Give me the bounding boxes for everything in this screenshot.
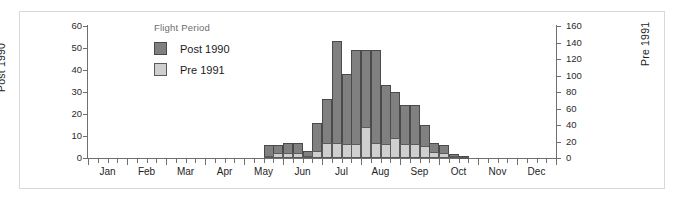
x-axis-label-apr: Apr <box>203 166 247 177</box>
x-minor-tick-mark <box>234 159 235 163</box>
bar-pre-1991 <box>322 143 332 158</box>
bar-post-1990 <box>351 50 361 158</box>
x-minor-tick-mark <box>137 159 138 163</box>
legend-label-pre-1991: Pre 1991 <box>180 64 225 76</box>
left-y-tick-label: 30 <box>56 87 82 97</box>
x-axis-label-oct: Oct <box>437 166 481 177</box>
right-y-tick-label: 160 <box>566 21 594 31</box>
x-minor-tick-mark <box>332 159 333 163</box>
x-minor-tick-mark <box>215 159 216 163</box>
x-minor-tick-mark <box>459 159 460 163</box>
right-y-tick-label: 100 <box>566 71 594 81</box>
x-axis-label-nov: Nov <box>476 166 520 177</box>
bar-pre-1991 <box>332 143 342 158</box>
x-axis-label-aug: Aug <box>359 166 403 177</box>
legend-title: Flight Period <box>154 22 230 33</box>
x-major-tick-mark <box>361 159 362 165</box>
right-y-tick-mark <box>557 158 561 159</box>
bar-post-1990 <box>332 41 342 158</box>
legend-swatch-pre-1991-icon <box>154 63 167 76</box>
left-y-tick-label: 0 <box>56 153 82 163</box>
x-minor-tick-mark <box>371 159 372 163</box>
x-major-tick-mark <box>244 159 245 165</box>
bar-pre-1991 <box>273 153 283 158</box>
x-major-tick-mark <box>283 159 284 165</box>
bar-pre-1991 <box>293 153 303 158</box>
right-y-tick-label: 60 <box>566 104 594 114</box>
x-axis-label-jan: Jan <box>86 166 130 177</box>
right-y-tick-mark <box>557 76 561 77</box>
x-minor-tick-mark <box>273 159 274 163</box>
left-y-tick-mark <box>83 92 87 93</box>
left-y-tick-mark <box>83 114 87 115</box>
x-minor-tick-mark <box>195 159 196 163</box>
chart-legend: Flight Period Post 1990 Pre 1991 <box>154 22 230 84</box>
x-major-tick-mark <box>166 159 167 165</box>
bar-pre-1991 <box>312 151 322 158</box>
bar-pre-1991 <box>390 138 400 158</box>
bar-pre-1991 <box>351 144 361 158</box>
x-major-tick-mark <box>478 159 479 165</box>
right-y-tick-label: 120 <box>566 54 594 64</box>
x-axis-label-jun: Jun <box>281 166 325 177</box>
x-minor-tick-mark <box>390 159 391 163</box>
right-y-tick-mark <box>557 43 561 44</box>
left-axis-title: Post 1990 <box>0 43 7 92</box>
bar-pre-1991 <box>459 157 469 159</box>
bar-pre-1991 <box>361 127 371 158</box>
x-major-tick-mark <box>205 159 206 165</box>
x-minor-tick-mark <box>488 159 489 163</box>
left-y-tick-label: 60 <box>56 21 82 31</box>
chart-figure: Post 1990 Pre 1991 0102030405060 0204060… <box>0 0 684 200</box>
x-axis-label-feb: Feb <box>125 166 169 177</box>
right-y-tick-label: 20 <box>566 137 594 147</box>
x-minor-tick-mark <box>303 159 304 163</box>
x-minor-tick-mark <box>342 159 343 163</box>
bar-pre-1991 <box>371 143 381 158</box>
left-y-tick-mark <box>83 136 87 137</box>
x-minor-tick-mark <box>264 159 265 163</box>
x-major-tick-mark <box>517 159 518 165</box>
x-minor-tick-mark <box>312 159 313 163</box>
left-y-tick-mark <box>83 48 87 49</box>
bar-pre-1991 <box>283 153 293 158</box>
left-y-tick-label: 20 <box>56 109 82 119</box>
x-minor-tick-mark <box>410 159 411 163</box>
legend-item-pre-1991[interactable]: Pre 1991 <box>154 63 230 76</box>
legend-item-post-1990[interactable]: Post 1990 <box>154 42 230 55</box>
x-minor-tick-mark <box>527 159 528 163</box>
bar-pre-1991 <box>439 153 449 158</box>
x-major-tick-mark <box>322 159 323 165</box>
right-y-tick-mark <box>557 26 561 27</box>
x-minor-tick-mark <box>147 159 148 163</box>
right-y-tick-mark <box>557 109 561 110</box>
x-axis-label-dec: Dec <box>515 166 559 177</box>
right-y-tick-mark <box>557 59 561 60</box>
right-y-tick-label: 0 <box>566 153 594 163</box>
x-major-tick-mark <box>127 159 128 165</box>
x-minor-tick-mark <box>537 159 538 163</box>
left-y-tick-label: 40 <box>56 65 82 75</box>
x-minor-tick-mark <box>117 159 118 163</box>
x-axis-label-may: May <box>242 166 286 177</box>
left-y-tick-mark <box>83 70 87 71</box>
bar-pre-1991 <box>410 144 420 158</box>
left-y-tick-mark <box>83 26 87 27</box>
x-major-tick-mark <box>88 159 89 165</box>
left-y-axis-line <box>87 25 88 159</box>
right-y-tick-label: 40 <box>566 120 594 130</box>
x-major-tick-mark <box>556 159 557 165</box>
x-minor-tick-mark <box>186 159 187 163</box>
x-minor-tick-mark <box>108 159 109 163</box>
x-minor-tick-mark <box>156 159 157 163</box>
bar-pre-1991 <box>429 152 439 158</box>
x-minor-tick-mark <box>351 159 352 163</box>
x-minor-tick-mark <box>420 159 421 163</box>
right-axis-title: Pre 1991 <box>639 22 651 66</box>
left-y-tick-label: 10 <box>56 131 82 141</box>
x-axis-label-jul: Jul <box>320 166 364 177</box>
x-axis-label-mar: Mar <box>164 166 208 177</box>
legend-swatch-post-1990-icon <box>154 42 167 55</box>
x-minor-tick-mark <box>429 159 430 163</box>
right-y-tick-mark <box>557 92 561 93</box>
